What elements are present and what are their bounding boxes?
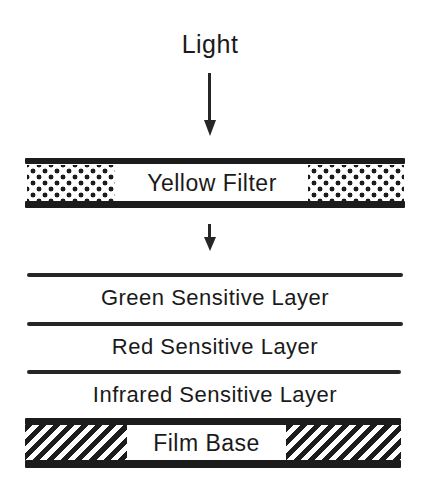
yellow-filter-label: Yellow Filter [117, 165, 307, 201]
film-base-label: Film Base [127, 425, 286, 461]
layer-label-red: Red Sensitive Layer [27, 334, 403, 360]
layer-label-green: Green Sensitive Layer [27, 285, 403, 311]
dotted-pattern-right [308, 165, 404, 201]
layer-label-infrared: Infrared Sensitive Layer [27, 382, 403, 408]
hatch-pattern-right [286, 425, 401, 461]
layer-separator [27, 273, 403, 277]
film-layer-diagram: Light Yellow Filter Green Sensitive Laye… [0, 0, 425, 490]
layer-separator [27, 322, 403, 326]
layer-separator [27, 370, 401, 374]
dotted-pattern-left [27, 165, 115, 201]
light-label: Light [160, 30, 260, 59]
hatch-pattern-left [25, 425, 127, 461]
